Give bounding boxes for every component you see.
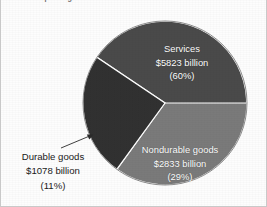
durable-label-name: Durable goods	[1, 150, 105, 164]
durable-label-percent: (11%)	[1, 179, 105, 193]
durable-label-value: $1078 billion	[1, 164, 105, 178]
caption-text: Consumer spending	[4, 0, 134, 3]
clipped-caption: Consumer spending	[4, 0, 134, 3]
pie-chart-figure: Consumer spending Services $5823 billion…	[0, 0, 267, 207]
leader-line-stroke	[61, 135, 92, 148]
durable-goods-slice-label: Durable goods $1078 billion (11%)	[1, 150, 105, 193]
